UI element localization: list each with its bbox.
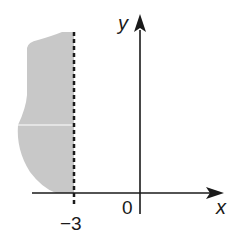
y-axis-arrow-icon bbox=[134, 14, 146, 32]
boundary-value-label: −3 bbox=[60, 213, 82, 234]
shaded-region bbox=[18, 32, 74, 193]
inequality-graph: y x 0 −3 bbox=[0, 0, 236, 241]
origin-label: 0 bbox=[122, 197, 133, 218]
y-axis-label: y bbox=[116, 12, 129, 34]
x-axis-label: x bbox=[215, 196, 227, 218]
